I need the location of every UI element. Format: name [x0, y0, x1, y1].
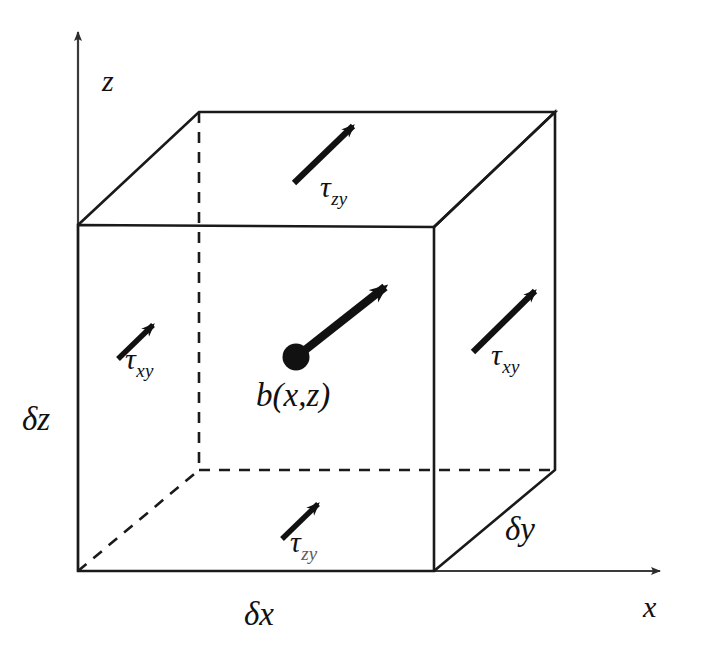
z-axis-label: z: [102, 66, 114, 96]
tau-xy-left-label: τxy: [125, 344, 154, 380]
tau-zy-top-subscript: zy: [331, 188, 348, 209]
tau-xy-left-subscript: xy: [136, 360, 154, 381]
tau-zy-bottom-label: τzy: [290, 527, 317, 563]
tau-xy-left-symbol: τ: [125, 342, 136, 375]
hidden-edge-depth-bottom-left: [78, 470, 199, 571]
delta-y-label: δy: [505, 513, 535, 546]
delta-x-label: δx: [244, 598, 274, 631]
tau-zy-bottom-subscript: zy: [301, 543, 318, 564]
tau-xy-right-subscript: xy: [502, 356, 520, 377]
tau-xy-right-label: τxy: [491, 340, 520, 376]
tau-xy-right-symbol: τ: [491, 338, 502, 371]
body-force-arrow: [300, 287, 385, 354]
top-face-outline: [78, 112, 555, 227]
stress-cube-diagram: z x δz δx δy τzy τxy τxy τzy b(x,z): [0, 0, 703, 657]
tau-zy-top-label: τzy: [320, 172, 347, 208]
body-force-dot: [283, 344, 310, 371]
delta-z-label: δz: [22, 403, 50, 436]
tau-zy-bottom-symbol: τ: [290, 525, 301, 558]
body-force-label: b(x,z): [256, 379, 330, 412]
x-axis-label: x: [643, 592, 656, 622]
diagram-canvas: [0, 0, 703, 657]
tau-zy-top-symbol: τ: [320, 170, 331, 203]
